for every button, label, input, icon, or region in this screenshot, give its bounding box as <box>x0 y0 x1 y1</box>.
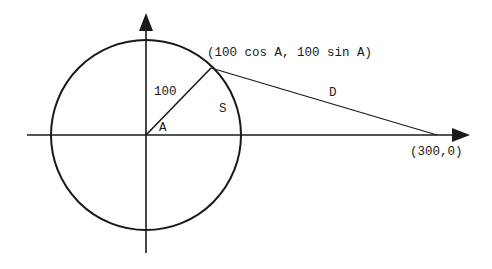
x-axis-arrow-icon <box>452 128 470 142</box>
arc-label: S <box>219 102 227 116</box>
angle-label: A <box>159 121 167 135</box>
radius-line <box>146 68 211 135</box>
distance-label: D <box>329 86 337 100</box>
point-on-circle-label: (100 cos A, 100 sin A) <box>207 46 372 60</box>
far-point-label: (300,0) <box>410 145 463 159</box>
y-axis-arrow-icon <box>139 13 153 31</box>
radius-label: 100 <box>154 85 177 99</box>
geometry-diagram: (100 cos A, 100 sin A) 100 A S D (300,0) <box>0 0 492 269</box>
distance-line-d <box>211 68 437 135</box>
